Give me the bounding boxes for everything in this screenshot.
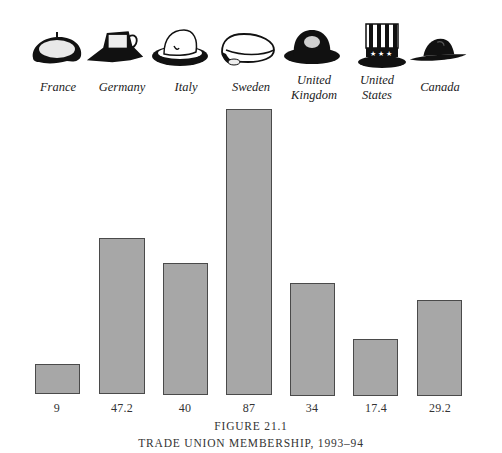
bar-germany	[99, 238, 145, 394]
category-label-canada: Canada	[400, 80, 480, 95]
bowler-hat-icon	[282, 18, 342, 70]
beret-hat-icon	[27, 18, 87, 70]
value-label-united-states: 17.4	[346, 401, 406, 416]
uncle-sam-top-hat-icon: ★ ★ ★	[352, 18, 412, 70]
fedora-hat-icon	[150, 18, 210, 70]
bar-italy	[163, 263, 208, 395]
chart-title: TRADE UNION MEMBERSHIP, 1993–94	[0, 437, 502, 449]
svg-text:★: ★	[386, 50, 392, 58]
bar-canada	[417, 300, 462, 396]
value-label-germany: 47.2	[92, 401, 152, 416]
bar-united-kingdom	[290, 283, 335, 396]
value-label-canada: 29.2	[410, 401, 470, 416]
mountie-campaign-hat-icon	[408, 18, 468, 70]
student-cap-icon	[218, 18, 278, 70]
value-label-sweden: 87	[219, 401, 279, 416]
tyrolean-hat-icon	[85, 18, 145, 70]
value-label-italy: 40	[155, 401, 215, 416]
bar-france	[35, 364, 80, 394]
svg-text:★: ★	[370, 50, 376, 58]
svg-text:★: ★	[378, 50, 384, 58]
figure-label: FIGURE 21.1	[0, 420, 502, 432]
value-label-france: 9	[27, 401, 87, 416]
bar-sweden	[226, 109, 272, 395]
value-label-united-kingdom: 34	[282, 401, 342, 416]
bar-united-states	[353, 339, 398, 396]
